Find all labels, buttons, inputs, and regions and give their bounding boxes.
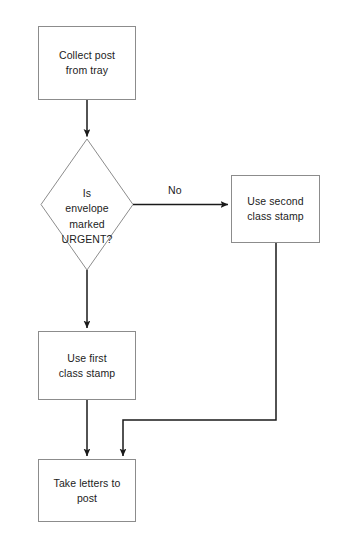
node-second-class: Use second class stamp — [231, 175, 320, 243]
edge-label-no: No — [168, 184, 182, 196]
node-take-letters-label: Take letters to post — [50, 476, 125, 506]
decision-diamond-is-urgent — [41, 139, 133, 270]
node-first-class: Use first class stamp — [38, 331, 136, 400]
node-collect-post: Collect post from tray — [38, 26, 136, 100]
node-second-class-label: Use second class stamp — [243, 194, 308, 224]
edge-second-class-to-take-letters — [123, 243, 276, 456]
node-take-letters: Take letters to post — [38, 459, 136, 522]
node-collect-post-label: Collect post from tray — [55, 48, 119, 78]
flowchart-canvas: Collect post from tray Is envelope marke… — [0, 0, 337, 556]
edge-label-no-text: No — [168, 184, 182, 196]
node-first-class-label: Use first class stamp — [55, 351, 120, 381]
